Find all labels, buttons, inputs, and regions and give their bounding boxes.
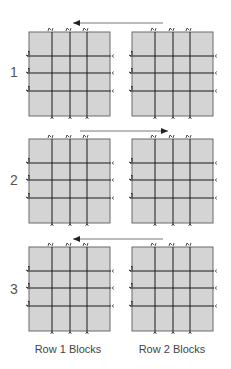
- right-tick-icon: [112, 179, 114, 182]
- top-tick-icon: [169, 28, 174, 31]
- right-tick-icon: [215, 179, 217, 182]
- top-tick-icon: [186, 28, 191, 31]
- right-tick-icon: [215, 197, 217, 200]
- column-label: Row 2 Blocks: [127, 343, 217, 355]
- arrow-head-icon: [73, 20, 80, 26]
- right-tick-icon: [112, 72, 114, 75]
- top-tick-icon: [83, 28, 88, 31]
- top-tick-icon: [48, 243, 53, 246]
- top-tick-icon: [151, 243, 156, 246]
- right-tick-icon: [215, 55, 217, 58]
- top-tick-icon: [66, 135, 71, 138]
- block-diagram: [0, 0, 231, 369]
- top-tick-icon: [186, 135, 191, 138]
- arrow-head-icon: [73, 236, 80, 242]
- top-tick-icon: [151, 28, 156, 31]
- right-tick-icon: [112, 305, 114, 308]
- right-tick-icon: [215, 72, 217, 75]
- right-tick-icon: [215, 287, 217, 290]
- right-tick-icon: [112, 90, 114, 93]
- right-tick-icon: [112, 55, 114, 58]
- right-tick-icon: [112, 162, 114, 165]
- right-tick-icon: [215, 162, 217, 165]
- top-tick-icon: [48, 28, 53, 31]
- top-tick-icon: [66, 243, 71, 246]
- right-tick-icon: [112, 270, 114, 273]
- top-tick-icon: [186, 243, 191, 246]
- column-label: Row 1 Blocks: [23, 343, 113, 355]
- row-number-label: 3: [10, 281, 18, 297]
- top-tick-icon: [169, 135, 174, 138]
- right-tick-icon: [215, 270, 217, 273]
- right-tick-icon: [215, 90, 217, 93]
- arrow-head-icon: [161, 128, 168, 134]
- top-tick-icon: [83, 135, 88, 138]
- top-tick-icon: [169, 243, 174, 246]
- top-tick-icon: [151, 135, 156, 138]
- right-tick-icon: [112, 197, 114, 200]
- right-tick-icon: [215, 305, 217, 308]
- row-number-label: 2: [10, 172, 18, 188]
- right-tick-icon: [112, 287, 114, 290]
- top-tick-icon: [66, 28, 71, 31]
- row-number-label: 1: [10, 64, 18, 80]
- top-tick-icon: [83, 243, 88, 246]
- top-tick-icon: [48, 135, 53, 138]
